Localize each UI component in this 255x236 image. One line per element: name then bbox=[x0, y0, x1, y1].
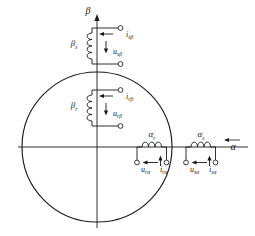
coil-beta-s-bottom-lead bbox=[92, 61, 118, 64]
alpha-axis-label: α bbox=[230, 141, 236, 152]
coil-beta-r-current-label: irβ bbox=[126, 92, 133, 102]
coil-beta-s-voltage-label: usβ bbox=[113, 47, 122, 57]
axes-group bbox=[18, 14, 248, 228]
coil-alpha-s-current-arrow-icon bbox=[192, 160, 208, 164]
coil-beta-r-terminal-bottom bbox=[118, 124, 123, 129]
coil-beta-s-label: βs bbox=[70, 38, 78, 50]
coil-beta-s-group: βs isβ usβ bbox=[70, 26, 134, 67]
coil-alpha-s-current-label: isα bbox=[209, 165, 217, 175]
coil-beta-r-winding bbox=[87, 93, 92, 123]
coil-beta-s-terminal-bottom bbox=[118, 62, 123, 67]
coil-beta-s-winding bbox=[87, 31, 92, 61]
coil-alpha-s-group: αs usα isα bbox=[184, 129, 218, 175]
coil-beta-r-voltage-arrow-icon bbox=[104, 103, 108, 116]
coil-alpha-r-left-lead bbox=[137, 147, 140, 160]
coil-alpha-r-current-arrow-icon bbox=[143, 160, 159, 164]
coil-alpha-s-right-lead bbox=[213, 147, 216, 160]
coil-beta-r-top-lead bbox=[92, 90, 118, 93]
coil-alpha-r-group: αr urα irα bbox=[135, 129, 169, 175]
coil-alpha-s-terminal-left bbox=[184, 160, 189, 165]
coil-alpha-r-right-lead bbox=[164, 147, 167, 160]
diagram-svg: β α bbox=[0, 0, 255, 236]
coil-beta-s-current-label: isβ bbox=[126, 30, 133, 40]
coil-beta-r-voltage-label: urβ bbox=[113, 109, 122, 119]
coil-beta-r-bottom-lead bbox=[92, 123, 118, 126]
coil-alpha-r-label: αr bbox=[149, 129, 157, 141]
coil-beta-s-voltage-arrow-icon bbox=[104, 41, 108, 54]
coil-alpha-s-terminal-right bbox=[213, 160, 218, 165]
coil-alpha-s-voltage-label: usα bbox=[190, 165, 200, 175]
diagram-canvas: β α bbox=[0, 0, 255, 236]
coil-beta-r-terminal-top bbox=[118, 88, 123, 93]
coil-beta-s-top-lead bbox=[92, 28, 118, 31]
alpha-overbar-arrowhead-icon bbox=[224, 138, 229, 142]
coil-beta-r-current-arrow-icon bbox=[99, 94, 113, 98]
coil-alpha-r-terminal-left bbox=[135, 160, 140, 165]
coil-beta-s-terminal-top bbox=[118, 26, 123, 31]
beta-axis-label: β bbox=[85, 5, 91, 16]
coil-beta-s-current-arrow-icon bbox=[99, 32, 113, 36]
coil-alpha-s-label: αs bbox=[198, 129, 205, 141]
coil-beta-r-label: βr bbox=[70, 100, 78, 112]
coil-alpha-s-winding bbox=[189, 142, 213, 147]
beta-axis-arrowhead-icon bbox=[94, 14, 99, 21]
coil-alpha-r-current-label: irα bbox=[160, 165, 168, 175]
coil-alpha-r-terminal-right bbox=[164, 160, 169, 165]
coil-alpha-s-left-lead bbox=[186, 147, 189, 160]
coil-alpha-r-winding bbox=[140, 142, 164, 147]
coil-beta-r-group: βr irβ urβ bbox=[70, 88, 134, 129]
coil-alpha-r-voltage-label: urα bbox=[141, 165, 151, 175]
alpha-axis-label-group: α bbox=[224, 138, 240, 152]
